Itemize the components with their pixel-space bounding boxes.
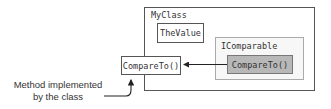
callout-line-2: by the class xyxy=(12,91,104,103)
callout-line-1: Method implemented xyxy=(12,79,104,91)
callout-curved-arrow xyxy=(104,80,131,96)
callout-text: Method implemented by the class xyxy=(12,79,104,103)
